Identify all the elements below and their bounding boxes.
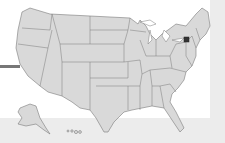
us-map bbox=[0, 0, 225, 143]
state-region-west[interactable] bbox=[16, 8, 210, 132]
location-dot-icon[interactable] bbox=[184, 37, 189, 42]
state-alaska[interactable] bbox=[18, 104, 50, 134]
state-hawaii[interactable] bbox=[67, 130, 81, 134]
